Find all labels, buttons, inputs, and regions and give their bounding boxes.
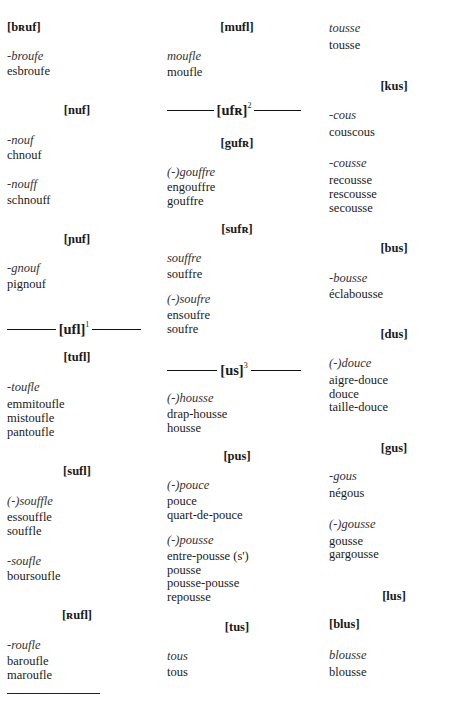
spelling-pattern: -gous (329, 469, 357, 483)
word-entry: douce (329, 387, 359, 401)
rhyme-header: [bʀuf] (7, 20, 41, 34)
word-entry: maroufle (7, 668, 52, 682)
spelling-pattern: -broufe (7, 49, 43, 63)
spelling-pattern: souffre (167, 251, 201, 265)
rhyme-header: [tufl] (7, 350, 147, 364)
spelling-pattern: -roufle (7, 638, 41, 652)
spelling-pattern: (-)gousse (329, 517, 376, 531)
section-label: [ufl]1 (56, 321, 93, 338)
word-entry: éclabousse (329, 287, 383, 301)
word-entry: emmitoufle (7, 397, 65, 411)
rhyme-header: [sufʀ] (167, 222, 307, 236)
spelling-pattern: (-)gouffre (167, 165, 215, 179)
rhyme-header: [pus] (167, 449, 307, 463)
word-entry: moufle (167, 65, 202, 79)
word-entry: entre-pousse (s') (167, 549, 249, 563)
rhyme-header: [blus] (329, 617, 360, 631)
word-entry: négous (329, 486, 364, 500)
word-entry: tous (167, 665, 188, 679)
spelling-pattern: (-)souffle (7, 494, 53, 508)
word-entry: esbroufe (7, 64, 50, 78)
column-left: [bʀuf]-broufeesbroufe[nuf]-noufchnouf-no… (7, 0, 147, 706)
spelling-pattern: -gnouf (7, 261, 40, 275)
footnote-ref: 3 (244, 361, 248, 370)
rule-line-right (254, 110, 301, 111)
section-label: [us]3 (217, 362, 250, 379)
section-label: [ufʀ]2 (214, 102, 255, 119)
spelling-pattern: -cous (329, 108, 356, 122)
rule-line-left (167, 370, 217, 371)
rhyme-header: [sufl] (7, 464, 147, 478)
rhyme-header: [dus] (329, 327, 459, 341)
word-entry: gargousse (329, 547, 379, 561)
word-entry: blousse (329, 665, 367, 679)
rhyme-header: [ʀufl] (7, 608, 147, 622)
word-entry: gousse (329, 534, 363, 548)
spelling-pattern: (-)pousse (167, 533, 214, 547)
word-entry: mistoufle (7, 411, 54, 425)
rhyme-header: [kus] (329, 79, 459, 93)
rhyme-header: [ɲuf] (7, 232, 147, 246)
spelling-pattern: -cousse (329, 156, 367, 170)
spelling-pattern: (-)douce (329, 356, 371, 370)
spelling-pattern: -nouf (7, 133, 33, 147)
spelling-pattern: tousse (329, 21, 360, 35)
rhyme-header: [tus] (167, 620, 307, 634)
word-entry: pantoufle (7, 425, 54, 439)
spelling-pattern: -toufle (7, 380, 40, 394)
footnote-ref: 1 (85, 320, 89, 329)
word-entry: schnouff (7, 193, 51, 207)
word-entry: secousse (329, 201, 373, 215)
section-ipa: [ufl] (59, 321, 86, 337)
word-entry: chnouf (7, 148, 42, 162)
word-entry: drap-housse (167, 407, 227, 421)
word-entry: couscous (329, 125, 375, 139)
rhyme-header: [nuf] (7, 103, 147, 117)
word-entry: pousse-pousse (167, 576, 239, 590)
section-rule-header: [ufʀ]2 (167, 101, 301, 119)
word-entry: repousse (167, 590, 211, 604)
column-right: toussetousse[kus]-couscouscous-cousserec… (329, 0, 459, 706)
word-entry: soufre (167, 322, 198, 336)
rhyme-header: [mufl] (167, 20, 307, 34)
word-entry: souffle (7, 524, 42, 538)
word-entry: gouffre (167, 194, 204, 208)
spelling-pattern: blousse (329, 648, 367, 662)
rhyme-header: [lus] (329, 589, 459, 603)
word-entry: aigre-douce (329, 373, 388, 387)
section-ipa: [us] (220, 362, 243, 378)
footnote-separator (7, 693, 100, 694)
rule-line-left (167, 110, 214, 111)
rhyme-header: [bus] (329, 241, 459, 255)
spelling-pattern: -bousse (329, 271, 367, 285)
spelling-pattern: (-)housse (167, 391, 214, 405)
spelling-pattern: tous (167, 649, 188, 663)
word-entry: pouce (167, 494, 197, 508)
rhyme-header: [gus] (329, 441, 459, 455)
rule-line-right (92, 329, 141, 330)
word-entry: rescousse (329, 187, 377, 201)
word-entry: pignouf (7, 277, 46, 291)
spelling-pattern: -nouff (7, 177, 37, 191)
word-entry: essouffle (7, 510, 52, 524)
word-entry: ensoufre (167, 308, 210, 322)
spelling-pattern: (-)pouce (167, 478, 209, 492)
section-rule-header: [us]3 (167, 361, 301, 379)
spelling-pattern: moufle (167, 49, 201, 63)
spelling-pattern: -soufle (7, 554, 41, 568)
rhyme-header: [gufʀ] (167, 136, 307, 150)
word-entry: souffre (167, 267, 202, 281)
section-ipa: [ufʀ] (217, 102, 248, 118)
section-rule-header: [ufl]1 (7, 320, 141, 338)
word-entry: baroufle (7, 654, 49, 668)
word-entry: pousse (167, 563, 201, 577)
word-entry: boursoufle (7, 569, 60, 583)
spelling-pattern: (-)soufre (167, 292, 210, 306)
word-entry: housse (167, 421, 201, 435)
rule-line-left (7, 329, 56, 330)
word-entry: quart-de-pouce (167, 508, 243, 522)
word-entry: taille-douce (329, 400, 388, 414)
word-entry: tousse (329, 38, 360, 52)
footnote-ref: 2 (247, 101, 251, 110)
column-middle: [mufl]mouflemoufle[ufʀ]2[gufʀ](-)gouffre… (167, 0, 307, 706)
